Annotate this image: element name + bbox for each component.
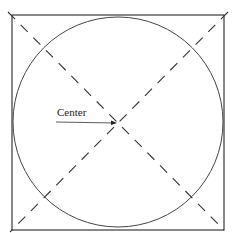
center-arrow-line (56, 122, 115, 123)
diagonal-line-1 (8, 12, 224, 230)
diagonal-line-2 (10, 12, 228, 232)
center-label: Center (57, 106, 86, 118)
inscribed-circle (13, 17, 223, 227)
center-of-circle-diagram (0, 0, 237, 233)
